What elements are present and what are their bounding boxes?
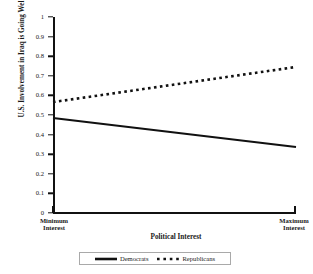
- y-axis-tick-label: 0.2: [14, 171, 44, 178]
- legend-swatch-solid-icon: [95, 257, 117, 261]
- x-axis-title: Political Interest: [86, 233, 266, 241]
- y-axis-tick-label: 1: [14, 14, 44, 21]
- y-axis-tick-label: 0.6: [14, 92, 44, 99]
- chart-legend: Democrats Republicans: [79, 252, 231, 265]
- cropped-title-remnant: [46, 0, 246, 2]
- plot-area: [53, 17, 296, 213]
- x-axis-tick-minimum-line1: Minimum: [30, 217, 78, 224]
- y-axis-tick-label: 0: [14, 210, 44, 217]
- legend-label-republicans: Republicans: [182, 255, 215, 262]
- legend-entry-democrats: Democrats: [95, 255, 149, 262]
- series-line-republicans: [53, 67, 296, 102]
- y-axis-tick-label: 0.3: [14, 151, 44, 158]
- legend-label-democrats: Democrats: [120, 255, 149, 262]
- y-axis-tick-label: 0.4: [14, 131, 44, 138]
- x-axis-tick-maximum-line2: Interest: [270, 224, 313, 231]
- legend-swatch-dotted-icon: [157, 257, 179, 261]
- y-axis-tick-layer: 10.90.80.70.60.50.40.30.20.10: [0, 0, 53, 274]
- y-axis-tick-label: 0.5: [14, 112, 44, 119]
- x-axis-tick-minimum: Minimum Interest: [30, 217, 78, 232]
- x-axis-tick-maximum-line1: Maximum: [270, 217, 313, 224]
- legend-entry-republicans: Republicans: [157, 255, 215, 262]
- y-axis-tick-label: 0.8: [14, 53, 44, 60]
- y-axis-tick-label: 0.7: [14, 73, 44, 80]
- x-axis-tick-maximum: Maximum Interest: [270, 217, 313, 232]
- y-axis-tick-label: 0.9: [14, 33, 44, 40]
- series-line-democrats: [53, 118, 296, 147]
- chart-lines-svg: [53, 17, 296, 213]
- x-axis-tick-minimum-line2: Interest: [30, 224, 78, 231]
- y-axis-tick-label: 0.1: [14, 190, 44, 197]
